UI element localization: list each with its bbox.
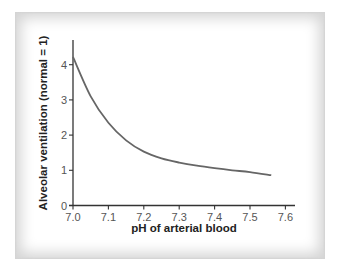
x-tick-label: 7.3 <box>172 211 187 223</box>
data-series <box>73 57 271 175</box>
x-tick-label: 7.1 <box>101 211 116 223</box>
axes <box>69 40 295 206</box>
x-axis-title: pH of arterial blood <box>131 222 236 234</box>
ticks: 012347.07.17.27.37.47.57.6 <box>61 59 293 223</box>
y-tick-label: 1 <box>61 164 67 176</box>
x-tick-label: 7.6 <box>278 211 293 223</box>
ventilation-curve <box>73 57 271 175</box>
x-tick-label: 7.2 <box>136 211 151 223</box>
y-tick-label: 3 <box>61 94 67 106</box>
line-chart: 012347.07.17.27.37.47.57.6 pH of arteria… <box>0 0 338 270</box>
x-tick-label: 7.5 <box>242 211 257 223</box>
y-axis-title: Alveolar ventilation (normal = 1) <box>37 35 49 210</box>
x-tick-label: 7.4 <box>207 211 222 223</box>
y-tick-label: 4 <box>61 59 67 71</box>
x-tick-label: 7.0 <box>65 211 80 223</box>
y-tick-label: 2 <box>61 129 67 141</box>
